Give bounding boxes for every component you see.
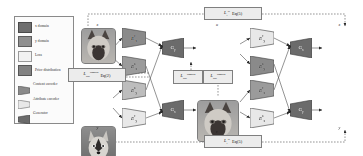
loss-symbol-adv-mid-a: Ladvdomain <box>181 73 196 80</box>
loss-box-domain-adversarial-left: Ladvdomain Eq(2) <box>68 68 126 82</box>
generator-y-right: Gy <box>290 100 312 120</box>
input-image-y-label: y <box>81 125 114 130</box>
prior-distribution-node-top-right <box>288 45 291 48</box>
attribute-encoder-y-left: Eay <box>122 80 146 100</box>
loss-box-domain-adversarial-mid-a: Ladvdomain <box>173 70 203 84</box>
generator-x-right-label: Gx <box>298 45 303 52</box>
content-encoder-x-left-label: Ecx <box>131 34 137 43</box>
translated-image-v-label: v <box>197 129 237 134</box>
loss-box-cycle-consistency-top: L1cc Eq(5) <box>204 7 262 20</box>
legend-item-prior-distribution: Prior distribution <box>18 64 71 78</box>
legend-item-content-encoder: Content encoder <box>18 78 71 92</box>
generator-x-left: Gx <box>162 100 184 120</box>
attribute-encoder-icon <box>18 95 30 104</box>
legend-item-generator: Generator <box>18 107 71 121</box>
prior-distribution-node-bottom-right <box>288 110 291 113</box>
x-domain-swatch-icon <box>18 22 32 33</box>
loss-box-cycle-consistency-bottom: L1cc Eq(5) <box>204 135 262 148</box>
generator-y-left: Gy <box>162 38 184 58</box>
loss-symbol-bottom: L1cc <box>224 138 230 145</box>
generator-x-left-label: Gx <box>170 107 175 114</box>
content-encoder-icon <box>18 81 30 90</box>
legend-label: Content encoder <box>33 83 57 87</box>
legend-label: Prior distribution <box>35 69 61 73</box>
input-image-y <box>81 126 116 156</box>
loss-box-domain-adversarial-mid-b: Ladvdomain <box>203 70 233 84</box>
content-encoder-x-right-label: Ecx <box>259 86 265 95</box>
prior-distribution-swatch-icon <box>18 65 32 76</box>
attribute-encoder-x-right-label: Eax <box>259 114 265 123</box>
generator-y-left-label: Gy <box>170 45 175 52</box>
loss-symbol-top: L1cc <box>224 10 230 17</box>
attribute-encoder-x-right: Eax <box>250 108 274 128</box>
legend-label: x domain <box>35 25 49 29</box>
reconstructed-image-x-label: x <box>323 22 356 27</box>
legend-label: y domain <box>35 40 49 44</box>
legend: x domain y domain Loss Prior distributio… <box>14 16 74 124</box>
attribute-encoder-y-right-label: Eay <box>259 62 265 71</box>
loss-equation-bottom: Eq(5) <box>232 139 242 144</box>
legend-item-y-domain: y domain <box>18 35 71 49</box>
attribute-encoder-x-left-label: Eax <box>131 62 137 71</box>
generator-y-right-label: Gy <box>298 107 303 114</box>
content-encoder-y-right-label: Ecy <box>259 34 265 43</box>
input-image-x <box>81 28 116 64</box>
input-image-x-label: x <box>81 22 114 27</box>
y-domain-swatch-icon <box>18 36 32 47</box>
legend-item-attribute-encoder: Attribute encoder <box>18 93 71 107</box>
legend-item-loss: Loss <box>18 49 71 63</box>
loss-symbol-adv-mid-b: Ladvdomain <box>211 73 226 80</box>
prior-distribution-node-top <box>160 45 163 48</box>
generator-x-right: Gx <box>290 38 312 58</box>
translated-image-u-label: u <box>197 22 237 27</box>
loss-equation-top: Eq(5) <box>232 11 242 16</box>
generator-icon <box>18 110 30 119</box>
attribute-encoder-y-right: Eay <box>250 56 274 76</box>
attribute-encoder-y-left-label: Eay <box>131 86 137 95</box>
legend-item-x-domain: x domain <box>18 20 71 34</box>
reconstructed-image-y-label: y <box>323 125 356 130</box>
loss-swatch-icon <box>18 51 32 62</box>
legend-label: Attribute encoder <box>33 98 59 102</box>
loss-equation-adv-left: Eq(2) <box>100 73 110 78</box>
prior-distribution-node-bottom <box>160 110 163 113</box>
content-encoder-x-right: Ecx <box>250 80 274 100</box>
legend-label: Generator <box>33 112 48 116</box>
content-encoder-x-left: Ecx <box>122 28 146 48</box>
content-encoder-y-left: Ecy <box>122 108 146 128</box>
legend-label: Loss <box>35 54 42 58</box>
content-encoder-y-right: Ecy <box>250 28 274 48</box>
loss-symbol-adv-left: Ladvdomain <box>84 71 99 78</box>
content-encoder-y-left-label: Ecy <box>131 114 137 123</box>
figure-canvas: x domain y domain Loss Prior distributio… <box>0 0 363 156</box>
